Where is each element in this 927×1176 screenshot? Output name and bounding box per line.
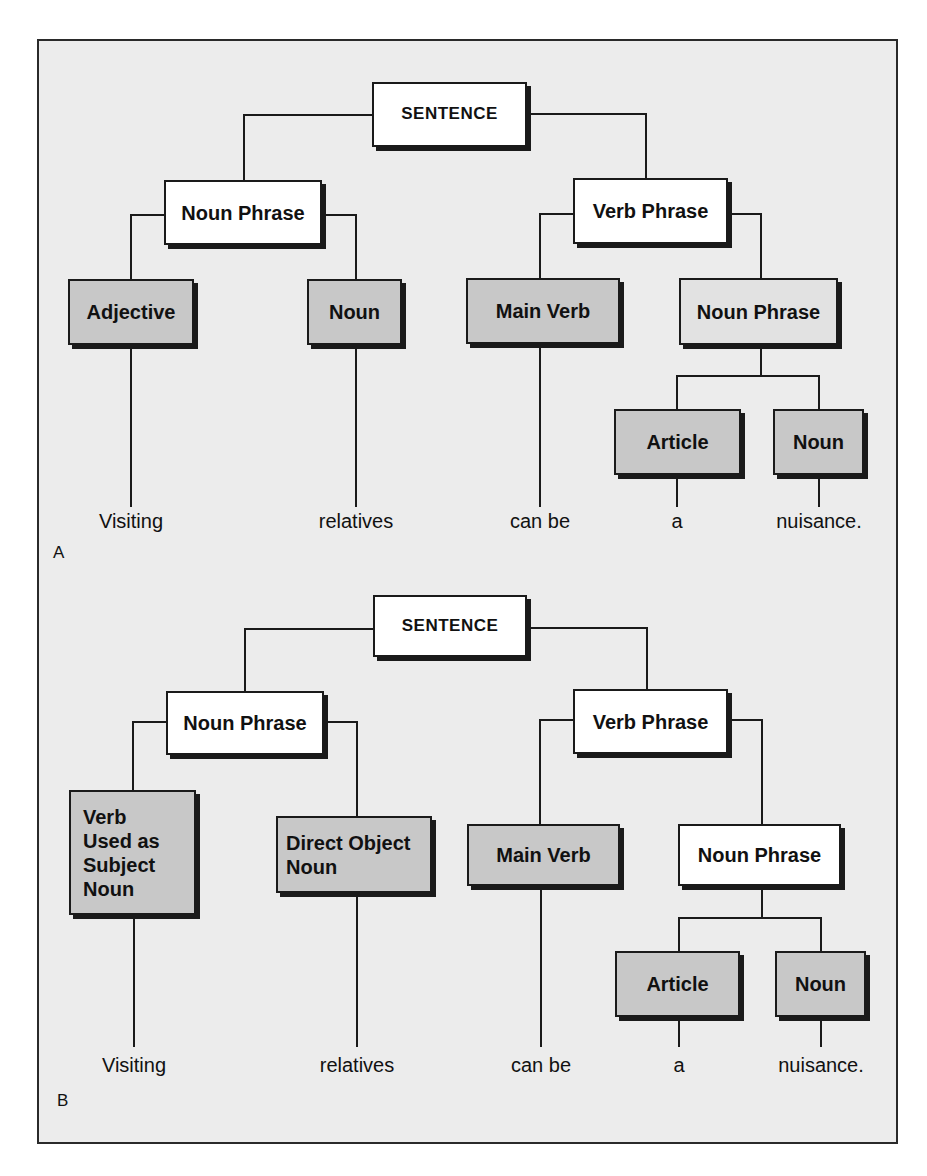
word-visiting: Visiting xyxy=(102,1054,166,1077)
word-relatives: relatives xyxy=(320,1054,394,1077)
node-noun: Noun xyxy=(307,279,402,345)
connector xyxy=(322,214,357,216)
connector xyxy=(526,627,648,629)
node-noun-phrase: Noun Phrase xyxy=(166,691,324,755)
node-object-noun-phrase: Noun Phrase xyxy=(679,278,838,345)
connector xyxy=(243,114,245,181)
word-can-be: can be xyxy=(510,510,570,533)
node-text-line: Subject xyxy=(83,853,155,877)
panel-label-b: B xyxy=(57,1091,68,1111)
connector xyxy=(760,213,762,279)
leaf-line xyxy=(130,345,132,507)
connector xyxy=(818,375,820,410)
connector xyxy=(539,719,541,825)
connector xyxy=(820,917,822,952)
connector xyxy=(243,114,374,116)
node-text-line: Noun xyxy=(83,877,134,901)
connector xyxy=(726,213,762,215)
node-noun-phrase: Noun Phrase xyxy=(164,180,322,245)
node-text-line: Used as xyxy=(83,829,160,853)
connector xyxy=(355,214,357,280)
connector xyxy=(539,213,541,279)
leaf-line xyxy=(820,1017,822,1047)
node-object-noun: Noun xyxy=(775,951,866,1017)
leaf-line xyxy=(356,893,358,1047)
leaf-line xyxy=(539,344,541,507)
word-a: a xyxy=(671,510,682,533)
panel-label-a: A xyxy=(53,543,64,563)
connector xyxy=(761,886,763,918)
connector xyxy=(761,719,763,825)
node-main-verb: Main Verb xyxy=(467,824,620,886)
connector xyxy=(676,375,820,377)
node-text-line: Verb xyxy=(83,805,126,829)
node-article: Article xyxy=(614,409,741,475)
node-direct-object-noun: Direct Object Noun xyxy=(276,816,432,893)
node-article: Article xyxy=(615,951,740,1017)
connector xyxy=(676,375,678,410)
connector xyxy=(132,721,168,723)
node-adjective: Adjective xyxy=(68,279,194,345)
leaf-line xyxy=(355,345,357,507)
connector xyxy=(132,721,134,791)
connector xyxy=(726,719,763,721)
leaf-line xyxy=(133,915,135,1047)
word-a: a xyxy=(673,1054,684,1077)
node-sentence: SENTENCE xyxy=(373,595,527,657)
connector xyxy=(130,214,166,216)
leaf-line xyxy=(818,475,820,507)
leaf-line xyxy=(540,886,542,1047)
connector xyxy=(678,917,822,919)
node-object-noun-phrase: Noun Phrase xyxy=(678,824,841,886)
node-object-noun: Noun xyxy=(773,409,864,475)
word-can-be: can be xyxy=(511,1054,571,1077)
word-nuisance: nuisance. xyxy=(776,510,862,533)
node-main-verb: Main Verb xyxy=(466,278,620,344)
connector xyxy=(645,113,647,179)
connector xyxy=(760,345,762,376)
connector xyxy=(646,627,648,690)
connector xyxy=(526,113,647,115)
connector xyxy=(356,721,358,817)
word-relatives: relatives xyxy=(319,510,393,533)
connector xyxy=(244,628,246,692)
leaf-line xyxy=(678,1017,680,1047)
leaf-line xyxy=(676,475,678,507)
node-verb-phrase: Verb Phrase xyxy=(573,178,728,244)
connector xyxy=(322,721,358,723)
connector xyxy=(678,917,680,952)
node-text-line: Noun xyxy=(286,855,337,879)
connector xyxy=(130,214,132,280)
node-text-line: Direct Object xyxy=(286,831,410,855)
node-verb-used-as-subject-noun: Verb Used as Subject Noun xyxy=(69,790,196,915)
node-verb-phrase: Verb Phrase xyxy=(573,689,728,754)
word-visiting: Visiting xyxy=(99,510,163,533)
word-nuisance: nuisance. xyxy=(778,1054,864,1077)
connector xyxy=(539,213,575,215)
connector xyxy=(244,628,375,630)
node-sentence: SENTENCE xyxy=(372,82,527,147)
connector xyxy=(539,719,575,721)
